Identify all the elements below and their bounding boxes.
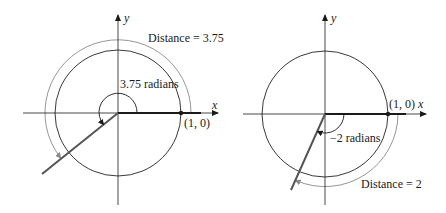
distance-label: Distance = 3.75 xyxy=(148,31,224,45)
point-label: (1, 0) xyxy=(389,97,415,111)
right-figure: y x −2 radians Distance = 2 (1, 0) xyxy=(243,11,426,205)
left-figure: y x Distance = 3.75 3.75 radians (1, 0) xyxy=(23,11,224,205)
x-axis-label: x xyxy=(211,98,218,112)
point-1-0 xyxy=(179,111,183,115)
point-label: (1, 0) xyxy=(184,116,210,130)
angle-label: −2 radians xyxy=(330,131,381,145)
x-axis-label: x xyxy=(417,97,424,111)
angle-label: 3.75 radians xyxy=(120,77,179,91)
terminal-side xyxy=(291,114,325,190)
unit-circle-diagrams: y x Distance = 3.75 3.75 radians (1, 0) … xyxy=(0,0,446,213)
distance-label: Distance = 2 xyxy=(361,177,422,191)
point-1-0 xyxy=(386,112,390,116)
y-axis-label: y xyxy=(330,11,337,25)
y-axis-label: y xyxy=(123,11,130,25)
terminal-side xyxy=(42,113,118,174)
